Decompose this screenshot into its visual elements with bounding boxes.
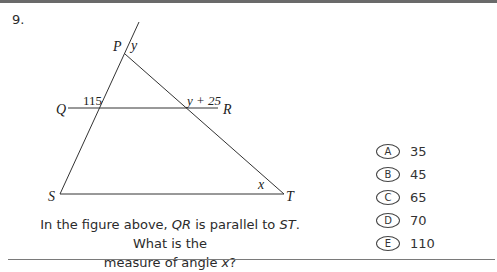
choice-bubble-d[interactable]: D <box>376 213 400 228</box>
choice-e[interactable]: E 110 <box>376 232 435 255</box>
segment-st-ref: ST <box>279 217 295 232</box>
choice-a[interactable]: A 35 <box>376 140 435 163</box>
label-angle-y-plus-25: y + 25 <box>185 93 222 108</box>
choice-d[interactable]: D 70 <box>376 209 435 232</box>
choice-value: 45 <box>410 167 427 182</box>
choice-bubble-c[interactable]: C <box>376 190 400 205</box>
label-p: P <box>112 39 122 54</box>
choice-bubble-b[interactable]: B <box>376 167 400 182</box>
choice-bubble-a[interactable]: A <box>376 144 400 159</box>
choice-value: 35 <box>410 144 427 159</box>
label-angle-y: y <box>129 38 138 53</box>
question-text-part: measure of angle <box>104 255 222 270</box>
question-text-part: is parallel to <box>191 217 279 232</box>
label-angle-x: x <box>257 177 265 192</box>
question-text: In the figure above, QR is parallel to S… <box>40 215 300 272</box>
label-r: R <box>222 102 232 117</box>
bottom-rule <box>8 259 495 260</box>
label-angle-115: 115 <box>83 93 102 108</box>
label-t: T <box>286 189 295 204</box>
choice-bubble-e[interactable]: E <box>376 236 400 251</box>
choice-value: 65 <box>410 190 427 205</box>
choice-c[interactable]: C 65 <box>376 186 435 209</box>
label-q: Q <box>56 102 66 117</box>
question-text-part: ? <box>229 255 236 270</box>
question-text-part: In the figure above, <box>40 217 172 232</box>
choice-b[interactable]: B 45 <box>376 163 435 186</box>
segment-pt <box>125 54 284 194</box>
choice-value: 70 <box>410 213 427 228</box>
choice-value: 110 <box>410 236 435 251</box>
answer-choices: A 35 B 45 C 65 D 70 E 110 <box>376 140 435 255</box>
label-s: S <box>48 189 55 204</box>
segment-qr-ref: QR <box>172 217 191 232</box>
